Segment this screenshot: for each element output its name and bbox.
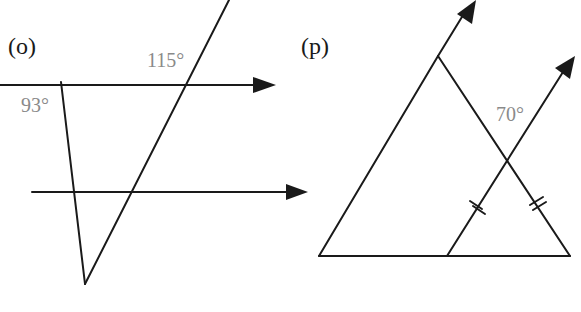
arrow-ray-left bbox=[438, 12, 465, 56]
transversal-short bbox=[61, 82, 85, 284]
figure-label-o: (o) bbox=[8, 34, 36, 58]
angle-label-93: 93° bbox=[21, 95, 49, 115]
triangle-left-side bbox=[319, 56, 438, 256]
geometry-figures bbox=[0, 0, 581, 312]
arrowhead-icon bbox=[286, 184, 308, 200]
transversal-long bbox=[85, 0, 229, 284]
arrowhead-icon bbox=[253, 77, 276, 93]
angle-label-115: 115° bbox=[147, 50, 184, 70]
figure-label-p: (p) bbox=[301, 34, 329, 58]
angle-label-70: 70° bbox=[496, 104, 524, 124]
triangle-right-side bbox=[438, 56, 570, 256]
parallel-ray-right bbox=[447, 72, 563, 256]
arrowhead-icon bbox=[555, 56, 575, 79]
